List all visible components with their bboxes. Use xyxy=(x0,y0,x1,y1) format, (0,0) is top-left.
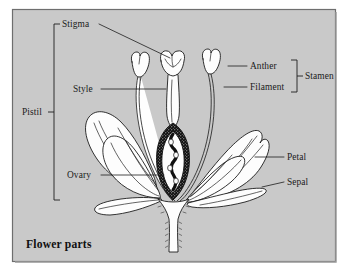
ovule-3 xyxy=(168,165,173,171)
label-style: Style xyxy=(73,84,93,94)
figure-title: Flower parts xyxy=(26,238,92,251)
label-petal: Petal xyxy=(287,152,307,162)
label-stigma: Stigma xyxy=(62,19,90,29)
flower-parts-figure: Pistil Stigma Style Ovary Anther Filamen… xyxy=(0,0,347,272)
label-ovary: Ovary xyxy=(67,170,91,180)
ovule-2 xyxy=(174,152,179,158)
label-sepal: Sepal xyxy=(287,177,309,187)
diagram-canvas: Pistil Stigma Style Ovary Anther Filamen… xyxy=(0,0,347,272)
label-pistil: Pistil xyxy=(22,107,42,117)
label-filament: Filament xyxy=(250,82,284,92)
ovule-4 xyxy=(174,178,179,184)
style-column xyxy=(167,75,180,129)
label-stamen: Stamen xyxy=(305,71,334,81)
label-anther: Anther xyxy=(250,61,277,71)
ovule-1 xyxy=(169,139,174,145)
